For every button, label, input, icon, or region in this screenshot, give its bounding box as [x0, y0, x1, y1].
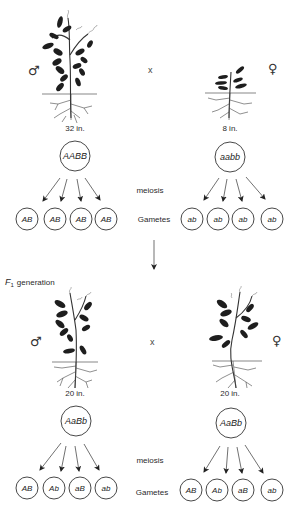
- f1-male-gametes: AB Ab aB ab: [16, 477, 117, 499]
- gamete: AB: [100, 215, 112, 224]
- male-meiosis-arrows: [43, 178, 100, 201]
- f1-female-plant-illustration: [209, 286, 262, 388]
- gamete: aB: [238, 486, 248, 495]
- gamete: AB: [49, 215, 61, 224]
- female-symbol-icon: ♀: [268, 61, 278, 76]
- gamete: ab: [268, 486, 277, 495]
- f1-female-genotype: AaBb: [219, 418, 242, 428]
- f1-female-height-label: 20 in.: [220, 389, 240, 398]
- female-genotype-circle: aabb: [215, 142, 245, 172]
- female-gametes: ab ab ab ab: [181, 208, 283, 230]
- f1-male-meiosis-arrows: [40, 443, 99, 471]
- meiosis-label: meiosis: [136, 186, 163, 195]
- male-gametes: AB AB AB AB: [16, 208, 117, 230]
- gamete: AB: [21, 484, 33, 493]
- male-height-label: 32 in.: [65, 124, 85, 133]
- gamete: ab: [188, 215, 197, 224]
- gamete: Ab: [211, 486, 222, 495]
- male-symbol-icon: ♂: [30, 334, 42, 349]
- f1-male-height-label: 20 in.: [65, 389, 85, 398]
- female-symbol-icon: ♀: [272, 333, 282, 348]
- f1-male-genotype: AaBb: [64, 416, 87, 426]
- gamete: ab: [239, 215, 248, 224]
- f1-male-genotype-circle: AaBb: [61, 406, 91, 436]
- female-height-label: 8 in.: [222, 124, 237, 133]
- short-plant-illustration: [205, 65, 256, 120]
- tall-plant-illustration: [41, 10, 97, 123]
- gamete: ab: [268, 215, 277, 224]
- f1-female-gametes: AB Ab aB ab: [180, 479, 283, 501]
- f1-female-meiosis-arrows: [204, 445, 263, 473]
- gamete: Ab: [48, 484, 59, 493]
- parent-row: ♂ x ♀ 32 in.: [16, 10, 283, 230]
- gamete: aB: [75, 484, 85, 493]
- male-genotype-circle: AABB: [60, 141, 90, 171]
- f1-meiosis-label: meiosis: [136, 456, 163, 465]
- f1-gametes-label: Gametes: [136, 488, 168, 497]
- f1-female-genotype-circle: AaBb: [216, 408, 246, 438]
- f1-generation-label: F1generation: [5, 277, 55, 288]
- gametes-label: Gametes: [138, 215, 170, 224]
- gamete: AB: [185, 486, 197, 495]
- gamete: ab: [214, 215, 223, 224]
- gamete: AB: [21, 215, 33, 224]
- female-genotype: aabb: [220, 152, 240, 162]
- f1-row: F1generation ♂ x ♀ 20 in.: [5, 277, 283, 501]
- male-symbol-icon: ♂: [28, 63, 40, 78]
- dihybrid-cross-diagram: ♂ x ♀ 32 in.: [0, 0, 301, 509]
- cross-symbol: x: [148, 65, 153, 75]
- cross-symbol: x: [150, 337, 155, 347]
- male-genotype: AABB: [62, 151, 87, 161]
- f1-male-plant-illustration: [52, 287, 98, 388]
- gamete: ab: [102, 484, 111, 493]
- female-meiosis-arrows: [204, 177, 265, 201]
- gamete: AB: [75, 215, 87, 224]
